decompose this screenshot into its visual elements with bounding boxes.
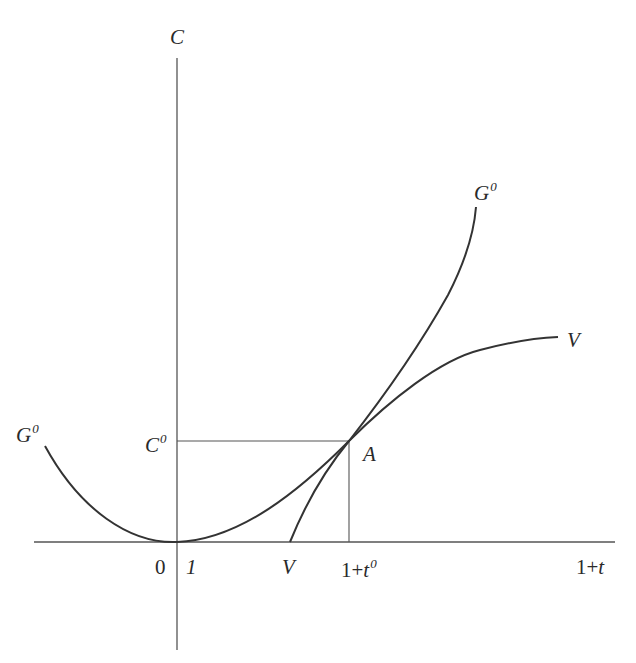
x-mark-t0-sup: 0 — [370, 556, 377, 571]
g0-left-label-base: G — [16, 423, 31, 447]
point-a-label: A — [363, 444, 376, 465]
c0-label-base: C — [145, 433, 159, 457]
x-mark-v: V — [282, 557, 295, 578]
x-mark-one: 1 — [186, 557, 197, 578]
g0-left-label-sup: 0 — [32, 421, 39, 436]
x-mark-t0: 1+t0 — [341, 557, 377, 581]
diagram-canvas — [0, 0, 636, 663]
g0-left-label: G0 — [16, 422, 39, 446]
x-mark-t0-base: 1+t — [341, 558, 369, 582]
c0-label-sup: 0 — [160, 431, 167, 446]
v-right-label: V — [567, 330, 580, 351]
c0-label: C0 — [145, 432, 167, 456]
g0-right-label-base: G — [474, 181, 489, 205]
x-axis-label: 1+t — [576, 557, 604, 578]
origin-label: 0 — [155, 557, 166, 578]
g0-right-label: G0 — [474, 180, 497, 204]
y-axis-label: C — [170, 27, 184, 48]
g0-steep-curve — [290, 207, 476, 542]
g0-v-curve — [45, 337, 558, 542]
g0-right-label-sup: 0 — [490, 179, 497, 194]
